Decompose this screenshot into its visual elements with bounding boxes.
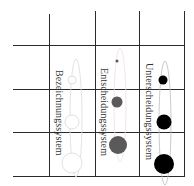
column-2-dot-large xyxy=(109,136,127,154)
column-3-dot-medium xyxy=(157,115,172,130)
column-1-dot-large xyxy=(62,153,82,173)
diagram-shapes xyxy=(0,0,194,186)
column-3-label: Unterscheidungssystem xyxy=(144,63,155,160)
column-2-label: Entscheidungssystem xyxy=(99,68,110,156)
column-1-dot-small xyxy=(68,76,76,84)
column-1-dot-medium xyxy=(65,115,79,129)
column-2-dot-small xyxy=(116,60,119,63)
column-3-dot-large xyxy=(154,154,174,174)
column-3-dot-small xyxy=(159,76,168,85)
column-1-label: Bezeichnungssystem xyxy=(54,70,65,156)
column-2-dot-medium xyxy=(112,97,123,108)
